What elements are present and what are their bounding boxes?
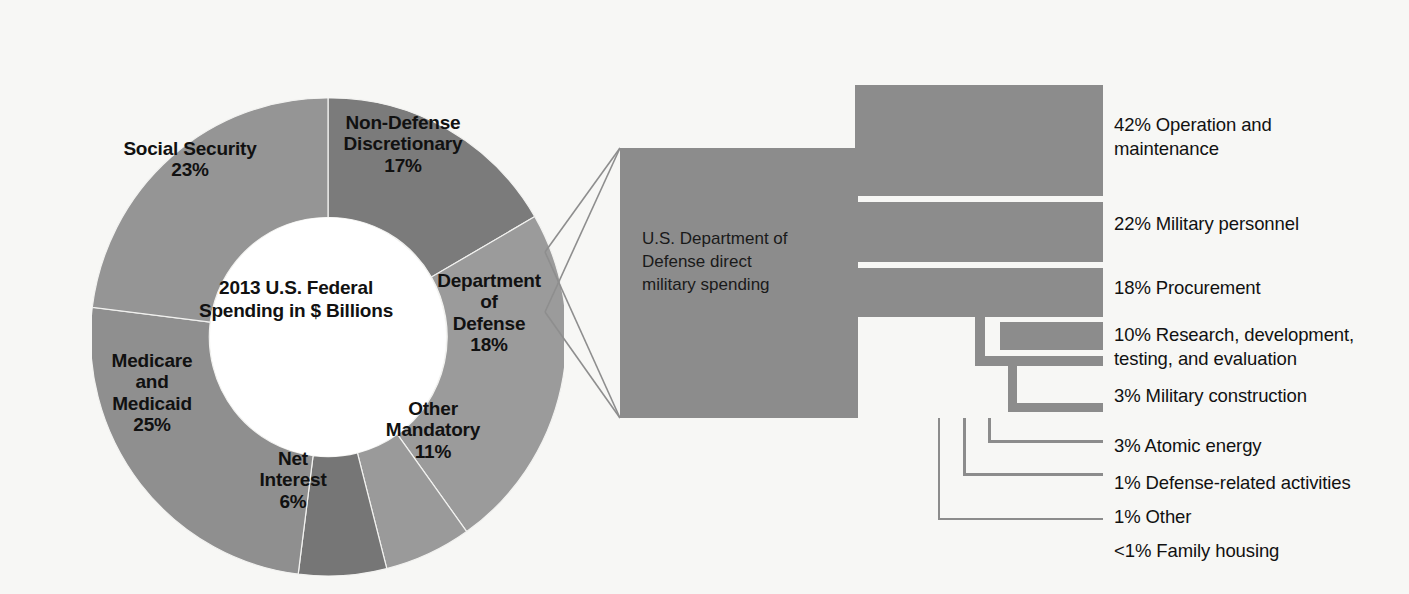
breakdown-label-military-construction: 3% Military construction (1114, 384, 1307, 408)
breakdown-segment-family-housing[interactable] (938, 518, 1103, 520)
breakdown-label-military-personnel: 22% Military personnel (1114, 212, 1299, 236)
breakdown-segment-atomic-energy[interactable] (1008, 403, 1103, 412)
infographic-root: Non-Defense Discretionary 17% Department… (0, 0, 1409, 594)
breakdown-segment-military-personnel[interactable] (855, 202, 1103, 262)
breakdown-label-research-development-testing-evaluation: 10% Research, development, testing, and … (1114, 323, 1354, 370)
breakdown-segment-military-construction[interactable] (975, 356, 1103, 366)
breakdown-caption: U.S. Department of Defense direct milita… (642, 228, 862, 297)
breakdown-segment-operation-and-maintenance[interactable] (855, 85, 1103, 196)
breakdown-label-atomic-energy: 3% Atomic energy (1114, 434, 1262, 458)
breakdown-label-operation-and-maintenance: 42% Operation and maintenance (1114, 113, 1272, 160)
breakdown-label-defense-related-activities: 1% Defense-related activities (1114, 471, 1351, 495)
breakdown-label-procurement: 18% Procurement (1114, 276, 1261, 300)
breakdown-label-other: 1% Other (1114, 505, 1191, 529)
breakdown-segment-defense-related-activities[interactable] (988, 440, 1103, 443)
breakdown-segment-other-stem (963, 418, 966, 476)
breakdown-segment-family-housing-stem (938, 418, 940, 520)
breakdown-segment-other[interactable] (963, 473, 1103, 476)
breakdown-segment-rdte-stem (1000, 322, 1016, 350)
breakdown-label-family-housing: <1% Family housing (1114, 539, 1279, 563)
breakdown-segment-procurement[interactable] (855, 268, 1103, 317)
breakdown-segment-milcon-stem (975, 317, 985, 366)
breakdown-segment-atomic-stem (1008, 366, 1017, 412)
breakdown-segment-defense-related-stem (988, 418, 991, 443)
